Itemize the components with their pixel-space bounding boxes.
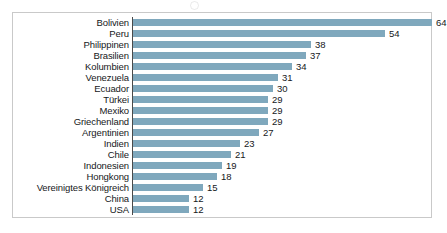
bar-row: Hongkong18 [13,171,431,182]
bar-track: 64 [132,17,429,28]
bar [133,52,306,59]
bar-value-label: 15 [207,182,218,193]
bar-track: 15 [132,182,429,193]
category-label: Peru [13,28,129,39]
bar-chart-plot-area: Bolivien64Peru54Philippinen38Brasilien37… [13,17,431,217]
bar [133,41,311,48]
category-label: Indonesien [13,160,129,171]
bar-track: 12 [132,193,429,204]
bar-value-label: 30 [277,83,288,94]
bar-row: Kolumbien34 [13,61,431,72]
bar-value-label: 37 [310,50,321,61]
scan-artifact [190,1,199,10]
category-label: Indien [13,138,129,149]
bar [133,195,189,202]
bar-row: Türkei29 [13,94,431,105]
bar [133,129,259,136]
category-label: Hongkong [13,171,129,182]
bar-row: Venezuela31 [13,72,431,83]
bar-value-label: 27 [263,127,274,138]
bar-row: Mexiko29 [13,105,431,116]
category-label: Bolivien [13,17,129,28]
bar-value-label: 19 [226,160,237,171]
bar-row: Bolivien64 [13,17,431,28]
bar [133,206,189,213]
bar-row: Griechenland29 [13,116,431,127]
bar-value-label: 23 [244,138,255,149]
category-label: Türkei [13,94,129,105]
chart-frame: Bolivien64Peru54Philippinen38Brasilien37… [12,12,432,218]
bar [133,140,240,147]
category-label: Philippinen [13,39,129,50]
bar-track: 31 [132,72,429,83]
bar [133,19,432,26]
bar-track: 29 [132,116,429,127]
bar [133,74,278,81]
bar-track: 21 [132,149,429,160]
bar-value-label: 38 [315,39,326,50]
bar [133,162,222,169]
category-label: Griechenland [13,116,129,127]
bar-row: Peru54 [13,28,431,39]
bar [133,63,292,70]
bar-value-label: 29 [272,105,283,116]
bar-value-label: 31 [282,72,293,83]
category-label: Ecuador [13,83,129,94]
bar-track: 30 [132,83,429,94]
bar-row: Indien23 [13,138,431,149]
bar-value-label: 54 [389,28,400,39]
bar-track: 23 [132,138,429,149]
bar-track: 29 [132,105,429,116]
bar-row: Indonesien19 [13,160,431,171]
category-label: China [13,193,129,204]
category-label: Venezuela [13,72,129,83]
bar [133,107,268,114]
bar-value-label: 18 [221,171,232,182]
category-label: Vereinigtes Königreich [13,182,129,193]
bar-track: 29 [132,94,429,105]
category-label: Argentinien [13,127,129,138]
bar-value-label: 12 [193,193,204,204]
bar-track: 19 [132,160,429,171]
category-label: Kolumbien [13,61,129,72]
bar-value-label: 29 [272,94,283,105]
bar-value-label: 29 [272,116,283,127]
bar-track: 38 [132,39,429,50]
bar [133,96,268,103]
bar [133,118,268,125]
bar-track: 18 [132,171,429,182]
bar-value-label: 34 [296,61,307,72]
category-label: USA [13,204,129,215]
bar-row: USA12 [13,204,431,215]
bar-value-label: 12 [193,204,204,215]
bar [133,184,203,191]
bar-row: Chile21 [13,149,431,160]
bar-row: Ecuador30 [13,83,431,94]
bar [133,151,231,158]
bar-row: Argentinien27 [13,127,431,138]
bar-row: Philippinen38 [13,39,431,50]
bar-row: Vereinigtes Königreich15 [13,182,431,193]
category-label: Brasilien [13,50,129,61]
bar [133,30,385,37]
bar-value-label: 64 [436,17,447,28]
bar-track: 12 [132,204,429,215]
category-label: Chile [13,149,129,160]
bar-track: 27 [132,127,429,138]
bar [133,85,273,92]
bar-track: 34 [132,61,429,72]
bar-value-label: 21 [235,149,246,160]
bar-track: 54 [132,28,429,39]
bar-track: 37 [132,50,429,61]
bar-row: China12 [13,193,431,204]
bar-row: Brasilien37 [13,50,431,61]
bar [133,173,217,180]
category-label: Mexiko [13,105,129,116]
